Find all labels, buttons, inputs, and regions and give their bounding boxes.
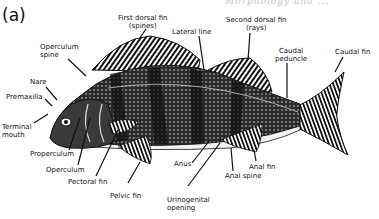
fish-anatomy-diagram: Morphology and ... (a) xyxy=(0,0,379,219)
label-anus: Anus xyxy=(174,160,191,168)
label-lateral-line: Lateral line xyxy=(172,28,211,36)
label-pelvic-fin: Pelvic fin xyxy=(110,192,141,200)
label-properculum: Properculum xyxy=(30,150,74,158)
label-pectoral-fin: Pectoral fin xyxy=(68,178,107,186)
label-caudal-peduncle: Caudalpeduncle xyxy=(275,47,307,63)
label-nare: Nare xyxy=(30,78,47,86)
label-anal-spine: Anal spine xyxy=(225,172,261,180)
caudal-fin-shape xyxy=(298,72,348,155)
label-second-dorsal-fin: Second dorsal fin(rays) xyxy=(226,16,287,32)
label-operculum-spine: Operculumspine xyxy=(40,43,78,59)
label-urinogenital-opening: Urinogenitalopening xyxy=(167,196,210,212)
label-first-dorsal-fin: First dorsal fin(spines) xyxy=(118,14,168,30)
label-terminal-mouth: Terminalmouth xyxy=(2,123,32,139)
label-caudal-fin: Caudal fin xyxy=(335,48,370,56)
label-anal-fin: Anal fin xyxy=(249,163,276,171)
label-operculum: Operculum xyxy=(46,166,84,174)
label-premaxilla: Premaxilla xyxy=(6,93,43,101)
